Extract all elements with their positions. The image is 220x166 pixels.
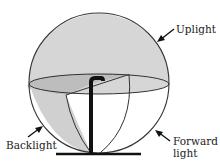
uplight-label: Uplight: [176, 23, 216, 35]
forward-light-arrow: [155, 130, 170, 141]
backlight-label: Backlight: [6, 139, 57, 151]
backlight-arrow: [28, 126, 43, 137]
forward-light-label-line2: light: [173, 147, 218, 159]
forward-light-label: Forward light: [173, 135, 218, 159]
forward-light-label-line1: Forward: [173, 135, 218, 147]
light-distribution-diagram: Uplight Backlight Forward light: [0, 0, 220, 166]
uplight-arrow: [157, 29, 174, 42]
